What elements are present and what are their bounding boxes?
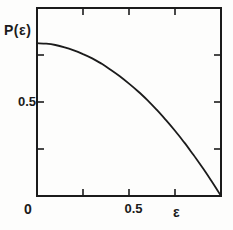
x-axis-label: ε	[173, 204, 180, 220]
line-chart-figure: P(ε) 0.5 0 0.5 ε	[0, 0, 233, 230]
origin-tick-label: 0	[24, 201, 32, 217]
x-tick-label-0-5: 0.5	[120, 201, 147, 216]
curve-P-of-epsilon	[37, 43, 221, 196]
plot-canvas	[0, 0, 233, 230]
y-tick-label-0-5: 0.5	[8, 94, 36, 109]
y-axis-label: P(ε)	[4, 22, 31, 38]
